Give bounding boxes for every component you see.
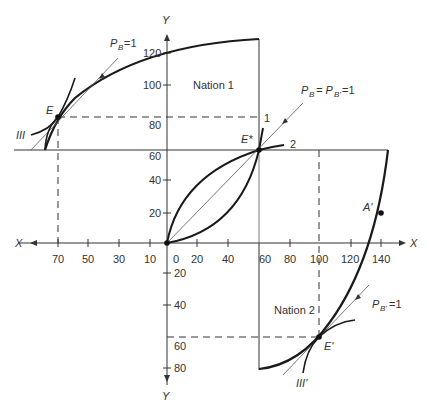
y-tick-down-20: 20 bbox=[174, 267, 186, 279]
label-center-sub1: B bbox=[309, 90, 315, 99]
label-curve-1: 1 bbox=[264, 112, 270, 124]
label-E-prime: E' bbox=[324, 340, 334, 352]
y-tick-labels-down: 20 40 60 80 bbox=[174, 267, 186, 374]
label-P-Bp: P bbox=[372, 298, 380, 310]
offer-curve-2 bbox=[167, 145, 284, 243]
point-origin bbox=[164, 240, 170, 246]
offer-curve-1 bbox=[167, 128, 263, 243]
x-tick-70: 70 bbox=[52, 253, 64, 265]
label-price-nation1: P B =1 bbox=[110, 37, 137, 52]
x-tick-50: 50 bbox=[82, 253, 94, 265]
y-tick-120: 120 bbox=[143, 47, 161, 59]
x-tick-80: 80 bbox=[284, 253, 296, 265]
label-P-B: P bbox=[110, 37, 118, 49]
x-tick-labels-right: 0 20 40 60 80 100 120 140 bbox=[173, 253, 390, 265]
label-price-center: P B = P B' =1 bbox=[301, 84, 355, 99]
label-center-P2: = P bbox=[316, 84, 333, 96]
y-axis-down-arrow-icon bbox=[164, 375, 170, 382]
x-tick-10: 10 bbox=[144, 253, 156, 265]
point-E-prime bbox=[316, 334, 322, 340]
point-E bbox=[55, 114, 61, 120]
x-tick-100: 100 bbox=[310, 253, 328, 265]
y-axis-up-arrow-icon bbox=[164, 34, 170, 41]
label-A-prime: A' bbox=[362, 201, 373, 213]
label-E: E bbox=[46, 104, 54, 116]
point-E-star bbox=[256, 147, 262, 153]
point-A-prime bbox=[378, 210, 384, 216]
label-center-P1: P bbox=[301, 84, 309, 96]
price-line-nation1 bbox=[31, 58, 118, 150]
trade-equilibrium-diagram: Y Y X X 70 50 30 10 0 20 40 60 80 100 12… bbox=[0, 0, 427, 412]
nation2-label: Nation 2 bbox=[274, 304, 315, 316]
y-tick-down-40: 40 bbox=[174, 299, 186, 311]
y-tick-labels-up: 120 100 80 60 40 20 bbox=[143, 47, 161, 219]
x-axis-label-left: X bbox=[14, 237, 23, 249]
y-tick-40: 40 bbox=[149, 174, 161, 186]
y-tick-60: 60 bbox=[149, 150, 161, 162]
x-tick-140: 140 bbox=[372, 253, 390, 265]
x-tick-labels-left: 70 50 30 10 bbox=[52, 253, 156, 265]
x-tick-0: 0 bbox=[173, 253, 179, 265]
x-tick-20: 20 bbox=[191, 253, 203, 265]
label-P-Bp-eq: =1 bbox=[389, 298, 402, 310]
y-tick-down-60: 60 bbox=[174, 340, 186, 352]
label-center-eq: =1 bbox=[342, 84, 355, 96]
y-tick-20: 20 bbox=[149, 207, 161, 219]
y-tick-80: 80 bbox=[149, 119, 161, 131]
x-tick-120: 120 bbox=[341, 253, 359, 265]
x-axis-right-arrow-icon bbox=[399, 240, 406, 246]
label-E-star: E* bbox=[241, 133, 253, 145]
label-III: III bbox=[16, 129, 25, 141]
x-axis-left-arrow-icon bbox=[30, 240, 37, 246]
ticks bbox=[58, 53, 381, 368]
label-price-nation2: P B' =1 bbox=[372, 298, 402, 313]
y-tick-down-80: 80 bbox=[174, 362, 186, 374]
label-center-sub2: B' bbox=[334, 90, 341, 99]
price-line-nation2-arrow-icon bbox=[355, 294, 361, 300]
label-III-prime: III' bbox=[296, 377, 308, 389]
label-P-Bp-sub: B' bbox=[380, 304, 387, 313]
nation1-label: Nation 1 bbox=[193, 79, 234, 91]
terms-of-trade-line bbox=[167, 103, 303, 243]
y-tick-100: 100 bbox=[143, 79, 161, 91]
x-tick-60: 60 bbox=[259, 253, 271, 265]
y-axis-label-top: Y bbox=[162, 14, 170, 26]
x-axis-label-right: X bbox=[409, 237, 418, 249]
label-curve-2: 2 bbox=[290, 138, 296, 150]
label-P-B-eq: =1 bbox=[124, 37, 137, 49]
y-axis-label-bottom: Y bbox=[162, 390, 170, 402]
x-tick-30: 30 bbox=[113, 253, 125, 265]
x-tick-40: 40 bbox=[222, 253, 234, 265]
